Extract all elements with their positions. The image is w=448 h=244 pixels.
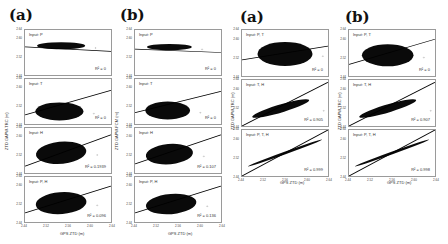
r-squared-label: R² = 0.096: [87, 213, 106, 218]
scatter-panel: Input: H R² = 0.107: [134, 127, 222, 174]
y-tick-label: 2.64: [12, 27, 22, 31]
panel-title: Input: P: [139, 32, 153, 37]
scatter-panel: Input: T, H R² = 0.907: [348, 79, 436, 127]
x-tick-label: 2.44: [21, 224, 27, 228]
x-tick-label: 2.60: [411, 178, 417, 182]
y-tick-label: 2.64: [122, 125, 132, 129]
x-tick-label: 2.52: [367, 178, 373, 182]
scatter-panel: Input: P, T, H R² = 0.999: [241, 129, 329, 177]
y-tick-label: 2.60: [229, 87, 239, 91]
r-squared-label: R² = 0.999: [304, 167, 323, 172]
outlier-marker: [200, 112, 201, 113]
y-axis-label-b1: ZTD GAPW-FCM (m): [114, 112, 119, 150]
panel-title: Input: P, H: [139, 179, 157, 184]
y-tick-label: 2.60: [122, 134, 132, 138]
scatter-cloud: [140, 140, 198, 167]
r-squared-label: R² = 0.1939: [85, 164, 106, 169]
scatter-cloud: [141, 190, 202, 217]
y-tick-label: 2.64: [122, 174, 132, 178]
x-tick-label: 2.52: [153, 224, 159, 228]
r-squared-label: R² = 0.136: [197, 213, 216, 218]
x-tick-label: 2.56: [282, 178, 288, 182]
x-tick-label: 2.44: [131, 224, 137, 228]
panel-title: Input: P, T, H: [246, 132, 269, 137]
y-tick-label: 2.52: [12, 104, 22, 108]
y-tick-label: 2.64: [122, 76, 132, 80]
scatter-panel: Input: T R² = 0: [134, 78, 222, 125]
y-tick-label: 2.60: [12, 85, 22, 89]
y-tick-label: 2.60: [336, 87, 346, 91]
panel-title: Input: T: [139, 81, 153, 86]
y-axis-label-a1: ZTD GAPW-TRC (m): [4, 112, 9, 150]
y-tick-label: 2.52: [336, 156, 346, 160]
y-tick-label: 2.52: [12, 153, 22, 157]
scatter-panel: Input: H R² = 0.1939: [24, 127, 112, 174]
scatter-panel: Input: P, T, H R² = 0.998: [348, 129, 436, 177]
r-squared-label: R² = 0: [205, 66, 216, 71]
outlier-marker: [207, 206, 208, 207]
x-tick-label: 2.60: [304, 178, 310, 182]
y-tick-label: 2.64: [229, 77, 239, 81]
y-tick-label: 2.60: [336, 37, 346, 41]
outlier-marker: [203, 156, 204, 157]
outlier-marker: [430, 110, 431, 111]
x-tick-label: 2.44: [238, 178, 244, 182]
scatter-panel: Input: P, T R² = 0: [348, 29, 436, 77]
y-tick-label: 2.64: [336, 77, 346, 81]
group-label-b2: (b): [345, 8, 370, 26]
y-tick-label: 2.64: [229, 127, 239, 131]
y-tick-label: 2.64: [12, 125, 22, 129]
x-axis-label-b1: GPS ZTD (m): [168, 231, 192, 236]
y-tick-label: 2.60: [229, 137, 239, 141]
outlier-marker: [322, 56, 323, 57]
x-tick-label: 2.56: [175, 224, 181, 228]
panel-title: Input: T, H: [353, 82, 371, 87]
y-tick-label: 2.64: [229, 27, 239, 31]
y-tick-label: 2.64: [122, 27, 132, 31]
x-tick-label: 2.56: [389, 178, 395, 182]
x-tick-label: 2.60: [197, 224, 203, 228]
y-tick-label: 2.64: [12, 174, 22, 178]
scatter-cloud: [356, 97, 419, 121]
y-tick-label: 2.60: [229, 37, 239, 41]
y-tick-label: 2.64: [336, 27, 346, 31]
panel-title: Input: T: [29, 81, 43, 86]
y-tick-label: 2.52: [12, 202, 22, 206]
r-squared-label: R² = 0.905: [304, 117, 323, 122]
group-label-b1: (b): [120, 6, 145, 24]
outlier-marker: [95, 48, 96, 49]
y-tick-label: 2.52: [12, 55, 22, 59]
panel-title: Input: P, H: [29, 179, 47, 184]
y-tick-label: 2.52: [229, 156, 239, 160]
scatter-panel: Input: P, H R² = 0.096: [24, 176, 112, 223]
scatter-panel: Input: P R² = 0: [24, 29, 112, 76]
y-tick-label: 2.60: [122, 85, 132, 89]
outlier-marker: [201, 49, 202, 50]
scatter-cloud: [145, 102, 190, 120]
y-tick-label: 2.60: [336, 137, 346, 141]
r-squared-label: R² = 0: [95, 115, 106, 120]
panel-title: Input: P, T: [353, 32, 371, 37]
y-tick-label: 2.64: [12, 76, 22, 80]
outlier-marker: [97, 205, 98, 206]
x-tick-label: 2.60: [87, 224, 93, 228]
x-tick-label: 2.64: [433, 178, 439, 182]
panel-title: Input: H: [139, 130, 153, 135]
panel-title: Input: P, T, H: [353, 132, 376, 137]
outlier-marker: [423, 57, 424, 58]
x-tick-label: 2.44: [345, 178, 351, 182]
x-tick-label: 2.64: [109, 224, 115, 228]
group-label-a2: (a): [240, 8, 264, 26]
r-squared-label: R² = 0.998: [411, 167, 430, 172]
scatter-panel: Input: P R² = 0: [134, 29, 222, 76]
group-label-a1: (a): [9, 6, 33, 24]
panel-title: Input: P, T: [246, 32, 264, 37]
scatter-panel: Input: T, H R² = 0.905: [241, 79, 329, 127]
x-tick-label: 2.52: [260, 178, 266, 182]
r-squared-label: R² = 0: [419, 67, 430, 72]
scatter-cloud: [257, 42, 312, 66]
panel-title: Input: H: [29, 130, 43, 135]
r-squared-label: R² = 0: [95, 66, 106, 71]
y-tick-label: 2.60: [12, 36, 22, 40]
outlier-marker: [97, 155, 98, 156]
